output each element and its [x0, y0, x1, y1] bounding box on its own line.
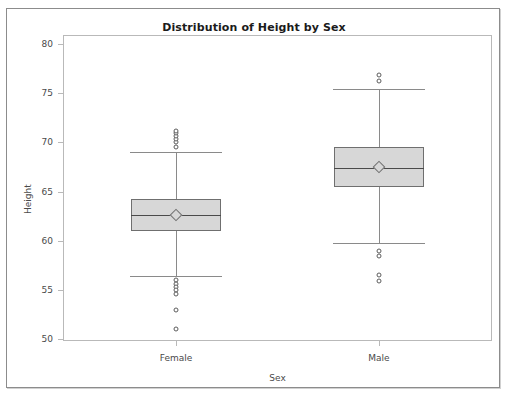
y-axis-tick-label: 70 — [21, 137, 53, 147]
outlier-point — [174, 307, 179, 312]
whisker-upper — [176, 152, 177, 199]
whisker-cap-lower — [333, 243, 425, 244]
outlier-point — [377, 248, 382, 253]
whisker-lower — [176, 231, 177, 276]
x-axis-tick — [176, 341, 177, 346]
outlier-point — [377, 273, 382, 278]
outlier-point — [377, 278, 382, 283]
outlier-point — [377, 79, 382, 84]
y-axis-tick — [58, 339, 63, 340]
outlier-point — [174, 145, 179, 150]
outlier-point — [174, 327, 179, 332]
y-axis-tick — [58, 93, 63, 94]
outlier-point — [377, 73, 382, 78]
x-axis-category-label: Male — [368, 353, 389, 363]
y-axis-tick — [58, 192, 63, 193]
y-axis-tick-label: 80 — [21, 39, 53, 49]
plot-layer: Height Sex 50556065707580 FemaleMale — [7, 9, 501, 389]
whisker-cap-upper — [130, 152, 222, 153]
y-axis-tick-label: 50 — [21, 334, 53, 344]
y-axis-tick — [58, 142, 63, 143]
y-axis-tick — [58, 44, 63, 45]
outlier-point — [174, 291, 179, 296]
outlier-point — [377, 254, 382, 259]
chart-screenshot: Distribution of Height by Sex Height Sex… — [0, 0, 508, 396]
x-axis-category-label: Female — [160, 353, 193, 363]
y-axis-tick-label: 60 — [21, 236, 53, 246]
whisker-lower — [379, 187, 380, 243]
whisker-cap-upper — [333, 89, 425, 90]
chart-panel: Distribution of Height by Sex Height Sex… — [6, 8, 500, 388]
y-axis-tick — [58, 241, 63, 242]
outlier-point — [174, 128, 179, 133]
y-axis-tick-label: 55 — [21, 285, 53, 295]
x-axis-label: Sex — [269, 373, 285, 383]
y-axis-tick-label: 65 — [21, 187, 53, 197]
y-axis-tick — [58, 290, 63, 291]
y-axis-tick-label: 75 — [21, 88, 53, 98]
whisker-upper — [379, 89, 380, 147]
x-axis-tick — [379, 341, 380, 346]
